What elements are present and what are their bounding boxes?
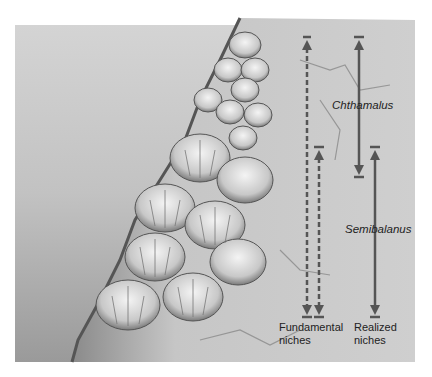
realized-niches-label: Realized niches [354, 321, 397, 347]
realized-line2: niches [354, 334, 397, 347]
chthamalus-label: Chthamalus [332, 99, 393, 112]
realized-line1: Realized [354, 321, 397, 334]
fundamental-line1: Fundamental [279, 321, 343, 334]
niche-diagram: Chthamalus Semibalanus Fundamental niche… [0, 0, 432, 377]
fundamental-niches-label: Fundamental niches [279, 321, 343, 347]
semibalanus-label: Semibalanus [345, 223, 411, 236]
fundamental-line2: niches [279, 334, 343, 347]
